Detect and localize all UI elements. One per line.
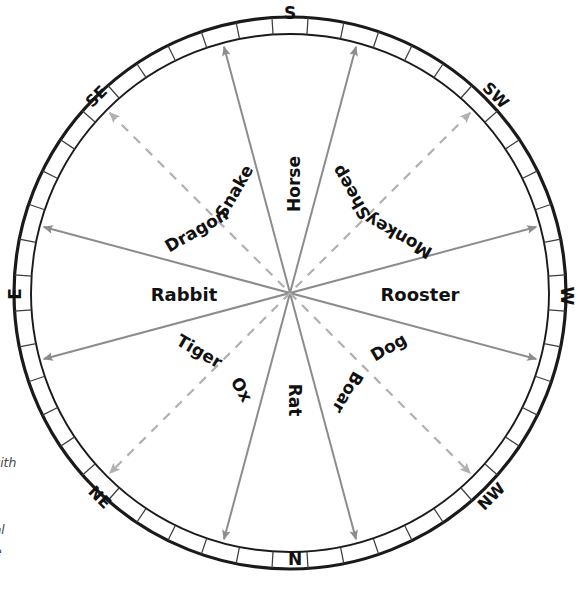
direction-label-s: S xyxy=(284,3,296,23)
zodiac-label-horse: Horse xyxy=(284,156,304,212)
direction-label-n: N xyxy=(288,549,302,569)
zodiac-label-rooster: Rooster xyxy=(381,284,460,305)
compass-zodiac-figure: SnakeHorseSheepDragonMonkeyRabbitRooster… xyxy=(0,0,579,594)
direction-label-e: E xyxy=(5,288,25,300)
zodiac-label-rat: Rat xyxy=(285,384,305,417)
zodiac-label-rabbit: Rabbit xyxy=(151,284,218,305)
direction-label-w: W xyxy=(557,287,577,306)
figure-caption: d with ns. ts imal iate vo. xyxy=(0,452,98,586)
